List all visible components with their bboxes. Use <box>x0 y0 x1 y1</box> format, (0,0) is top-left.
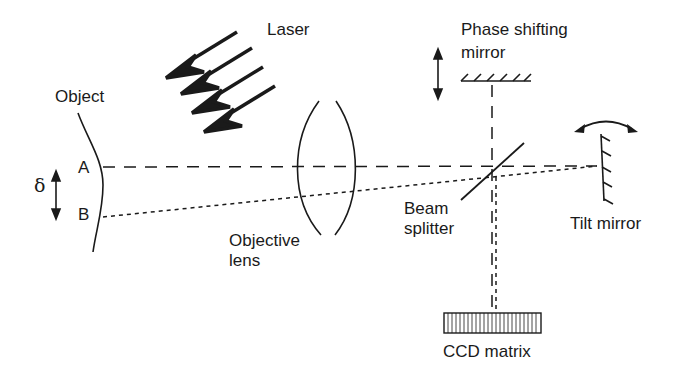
beam-splitter-label-line1: Beam <box>404 199 448 219</box>
objective-lens <box>297 101 355 235</box>
optical-diagram <box>0 0 685 385</box>
phase-shifting-mirror <box>461 74 531 81</box>
delta-double-arrow-icon <box>52 171 60 219</box>
ray-a <box>103 166 597 167</box>
objective-lens-label-line1: Objective <box>229 231 300 251</box>
object-surface <box>78 113 103 252</box>
beam-splitter-label-line2: splitter <box>404 219 454 239</box>
tilt-mirror-rotate-arrow-icon <box>574 122 638 134</box>
laser-beam-arrows-icon <box>166 32 275 132</box>
tilt-mirror-label: Tilt mirror <box>570 214 641 234</box>
phase-mirror-move-arrow-icon <box>434 49 442 99</box>
ccd-matrix-label: CCD matrix <box>443 342 531 362</box>
object-label: Object <box>55 87 104 107</box>
ray-b <box>103 166 597 217</box>
objective-lens-label-line2: lens <box>229 251 260 271</box>
phase-mirror-label-line1: Phase shifting <box>461 20 568 40</box>
ccd-matrix <box>444 313 541 333</box>
tilt-mirror <box>601 134 613 204</box>
point-a-label: A <box>78 158 89 178</box>
delta-label: δ <box>34 175 45 195</box>
phase-mirror-label-line2: mirror <box>461 43 505 63</box>
point-b-label: B <box>78 205 89 225</box>
laser-label: Laser <box>267 20 310 40</box>
